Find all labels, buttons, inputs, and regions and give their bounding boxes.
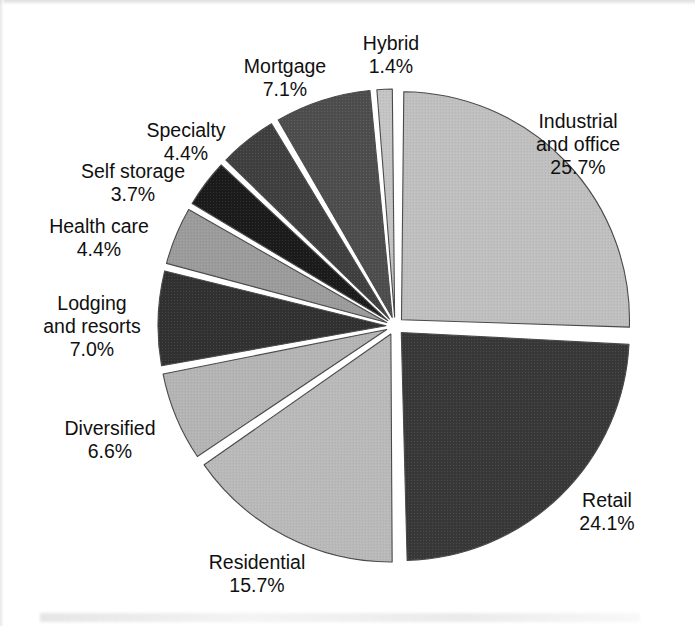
- pie-slice-label-percent: 4.4%: [77, 238, 121, 260]
- pie-slice-label: Residential15.7%: [209, 551, 305, 596]
- chart-page: Industrialand office25.7%Retail24.1%Resi…: [0, 0, 695, 626]
- pie-slice-label-percent: 7.1%: [263, 78, 307, 100]
- pie-slice-label-percent: 1.4%: [369, 55, 413, 77]
- pie-slice-label-name: Diversified: [64, 417, 155, 439]
- pie-slice-label: Diversified6.6%: [64, 417, 155, 462]
- pie-slice-label-name: Specialty: [146, 119, 225, 141]
- pie-slice-label-name: Hybrid: [363, 32, 419, 54]
- pie-slice-label-name: Mortgage: [244, 55, 326, 77]
- pie-slice-label: Mortgage7.1%: [244, 55, 326, 100]
- pie-slice-label: Retail24.1%: [579, 489, 634, 534]
- pie-slice-label-name: Residential: [209, 551, 305, 573]
- pie-slice-label-name: and office: [536, 133, 620, 155]
- pie-slice-label-name: Lodging: [57, 292, 126, 314]
- pie-slice-label-percent: 24.1%: [579, 512, 634, 534]
- pie-slice-label-percent: 3.7%: [111, 183, 155, 205]
- pie-slice-label: Health care4.4%: [49, 215, 149, 260]
- pie-slice-label: Hybrid1.4%: [363, 32, 419, 77]
- pie-slice-label-name: Industrial: [538, 110, 617, 132]
- pie-slice-label-percent: 25.7%: [550, 156, 605, 178]
- pie-slice-label-percent: 7.0%: [70, 338, 114, 360]
- pie-slice-label-percent: 6.6%: [88, 440, 132, 462]
- pie-chart: Industrialand office25.7%Retail24.1%Resi…: [0, 0, 695, 626]
- pie-slice-label: Specialty4.4%: [146, 119, 225, 164]
- pie-slice-label: Self storage3.7%: [81, 160, 185, 205]
- pie-slice-label-name: and resorts: [43, 315, 141, 337]
- pie-slice-label-percent: 4.4%: [164, 142, 208, 164]
- pie-slice-label-percent: 15.7%: [229, 574, 284, 596]
- pie-slice-label-name: Retail: [582, 489, 632, 511]
- pie-slice-label: Lodgingand resorts7.0%: [43, 292, 141, 360]
- pie-slice-label-name: Health care: [49, 215, 149, 237]
